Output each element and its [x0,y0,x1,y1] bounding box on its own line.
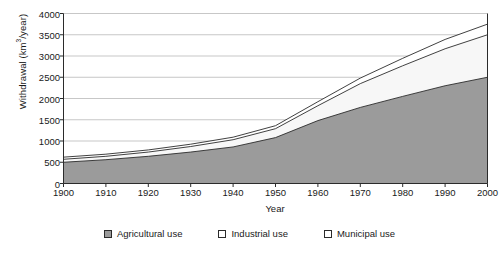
x-axis-tick-label: 1920 [138,187,159,198]
legend-item[interactable]: Agricultural use [104,228,182,239]
x-axis-tick-label: 1930 [180,187,201,198]
x-axis-tick-label: 1990 [435,187,456,198]
legend-item[interactable]: Municipal use [324,228,395,239]
x-axis-tick-label: 1940 [223,187,244,198]
legend-label: Agricultural use [117,228,182,239]
legend-item[interactable]: Industrial use [218,228,288,239]
legend-swatch-icon [218,230,226,238]
legend-label: Municipal use [337,228,395,239]
x-axis-tick-label: 1950 [265,187,286,198]
x-axis-tick-label: 1980 [392,187,413,198]
legend-swatch-icon [104,230,112,238]
plot-area [0,0,499,253]
x-axis-title: Year [63,203,487,214]
x-axis-tick-label: 2000 [477,187,498,198]
chart-legend: Agricultural useIndustrial useMunicipal … [0,228,499,239]
x-axis-tick-label: 1970 [350,187,371,198]
legend-swatch-icon [324,230,332,238]
x-axis-tick-label: 1960 [307,187,328,198]
chart-figure: Withdrawal (km3/year) 050010001500200025… [0,0,499,253]
legend-label: Industrial use [231,228,288,239]
x-axis-tick-label: 1900 [53,187,74,198]
x-axis-tick-label: 1910 [95,187,116,198]
